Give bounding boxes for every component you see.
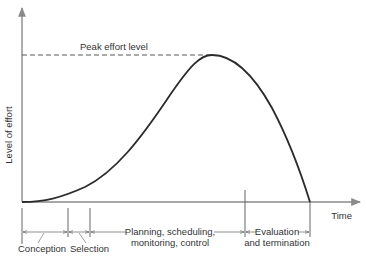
phase-selection: Selection <box>69 232 109 254</box>
phase-label-selection: Selection <box>70 243 109 254</box>
phase-label-planning-line1: Planning, scheduling, <box>125 226 215 237</box>
conception-leader-line <box>38 233 44 243</box>
phase-label-planning-line2: monitoring, control <box>131 237 209 248</box>
peak-effort-label: Peak effort level <box>80 41 148 52</box>
project-life-cycle-diagram: Level of effort Time Peak effort level C… <box>0 0 366 259</box>
phase-label-evaluation-line2: and termination <box>244 237 309 248</box>
phase-conception: Conception <box>18 232 67 254</box>
y-axis-label: Level of effort <box>3 106 14 164</box>
x-axis-label: Time <box>331 210 352 221</box>
phase-planning: Planning, scheduling, monitoring, contro… <box>91 226 244 248</box>
phase-label-evaluation-line1: Evaluation <box>255 226 299 237</box>
effort-curve <box>22 55 310 202</box>
phase-label-conception: Conception <box>18 243 66 254</box>
phase-evaluation: Evaluation and termination <box>244 226 309 248</box>
selection-leader-line <box>79 233 86 243</box>
